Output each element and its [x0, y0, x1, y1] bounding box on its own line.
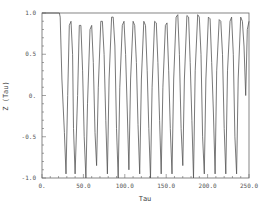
x-tick-label: 100.0 [116, 182, 134, 189]
x-tick-label: 150.0 [157, 182, 175, 189]
x-tick-label: 50.0 [76, 182, 91, 189]
y-tick-label: 0. [29, 92, 36, 99]
x-tick-label: 200.0 [199, 182, 217, 189]
x-axis-title: Tau [139, 195, 152, 203]
x-tick-label: 0. [38, 182, 45, 189]
line-chart: -1.0-0.50.0.51.0 0.50.0100.0150.0200.025… [0, 0, 276, 209]
plot-area [42, 13, 249, 178]
y-tick-label: -0.5 [22, 133, 37, 140]
data-line-z-tau [42, 13, 249, 178]
y-tick-label: -1.0 [22, 174, 37, 181]
x-tick-label: 250.0 [240, 182, 258, 189]
y-tick-label: 1.0 [25, 9, 36, 16]
x-axis: 0.50.0100.0150.0200.0250.0 [38, 174, 258, 189]
y-tick-label: 0.5 [25, 50, 36, 57]
y-axis-title: Z (Tau) [2, 81, 10, 111]
